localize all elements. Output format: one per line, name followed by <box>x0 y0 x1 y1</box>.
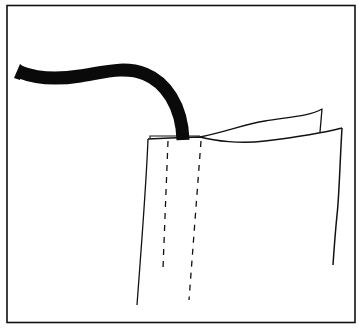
stitch-line-right <box>189 141 201 300</box>
diagram-canvas <box>0 0 360 329</box>
cord-casing-illustration <box>0 0 360 329</box>
casing-back-flap <box>200 109 322 137</box>
casing-left-edge <box>137 139 148 305</box>
casing-right-edge <box>333 128 342 265</box>
cord <box>20 70 183 140</box>
stitch-line-left <box>163 141 168 268</box>
frame-border <box>7 6 355 323</box>
